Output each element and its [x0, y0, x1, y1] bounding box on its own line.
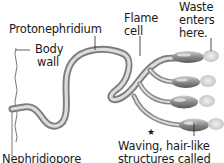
flame-cell-label-line2: cell	[124, 25, 143, 37]
body-wall-label-line1: Body	[35, 43, 63, 55]
flame-cell	[170, 95, 215, 109]
body-wall-label-line2: wall	[37, 56, 59, 68]
body-wall	[12, 48, 30, 156]
waste-label-line2: enters	[179, 14, 214, 26]
protonephridium-label: Protonephridium	[9, 23, 102, 35]
waste-label-line3: here.	[179, 27, 208, 39]
flame-cell	[172, 50, 219, 63]
flame-cell	[179, 118, 224, 132]
flame-cell	[172, 75, 216, 88]
flame-cells	[170, 50, 224, 132]
waving-label-line1: Waving, hair-like	[118, 140, 210, 152]
flame-cell-label-line1: Flame	[124, 12, 158, 24]
waving-label-line2: structures called	[118, 153, 211, 163]
star-marker: ★	[147, 126, 155, 138]
nephridiopore-label: Nephridiopore	[2, 153, 81, 163]
waste-label-line1: Waste	[179, 1, 213, 13]
